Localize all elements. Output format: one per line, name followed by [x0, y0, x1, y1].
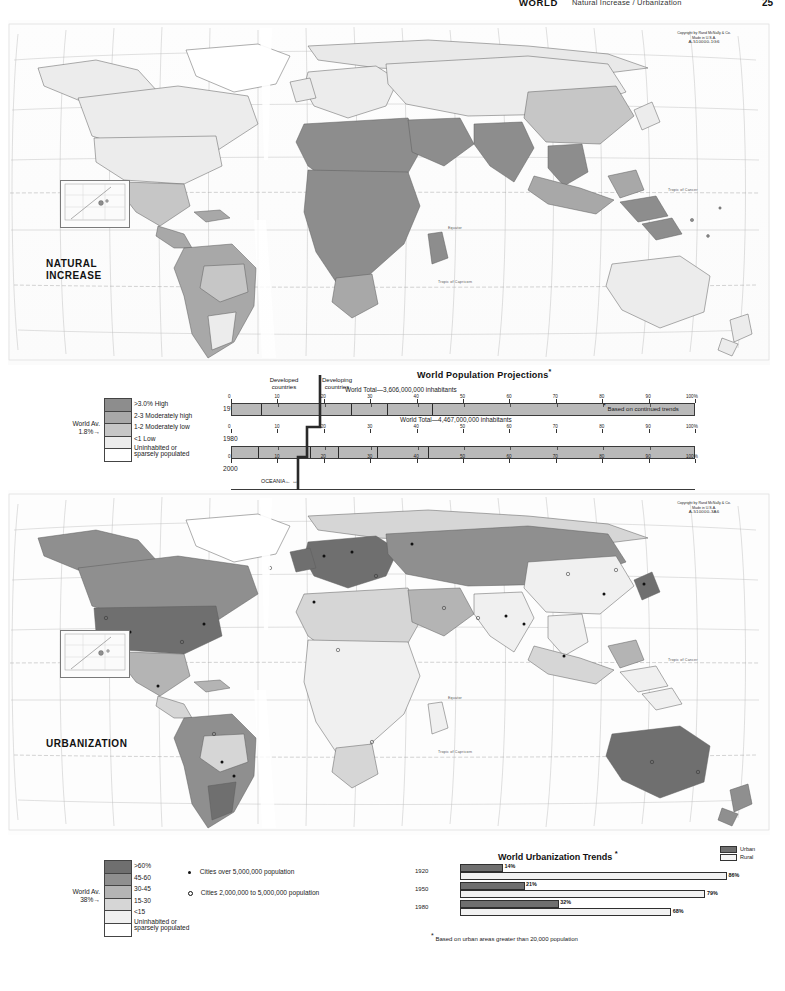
urb-swatch-3[interactable]	[105, 899, 131, 912]
axis-tick-label: 50	[460, 394, 465, 399]
projections-segment-1970-latinam[interactable]	[351, 404, 387, 415]
urb-label-3: 15-30	[134, 895, 189, 907]
axis-tick-label: 90	[646, 454, 651, 459]
axis-tick	[695, 459, 696, 463]
urbanization-year-label: 1950	[415, 886, 428, 892]
map1-inset-graphic	[61, 181, 129, 227]
urbanization-chart-legend: Urban Rural	[720, 846, 755, 861]
page-header: WORLD Natural Increase / Urbanization 25	[0, 0, 785, 9]
projections-footnote-marker: *	[603, 402, 606, 409]
axis-tick	[556, 459, 557, 463]
projections-chart-title: World Population Projections*	[417, 368, 551, 380]
urb-swatch-0[interactable]	[105, 861, 131, 874]
map2-inset-box[interactable]	[60, 630, 130, 678]
axis-tick	[649, 429, 650, 433]
urb-world-av-label: World Av.	[48, 888, 100, 896]
natural-increase-map[interactable]: Tropic of Cancer Equator Tropic of Capri…	[8, 20, 770, 365]
city-key-medium-label: Cities 2,000,000 to 5,000,000 population	[201, 889, 319, 896]
world-urbanization-trends-chart: World Urbanization Trends * Urban Rural …	[415, 840, 785, 950]
city-key-medium: Cities 2,000,000 to 5,000,000 population	[188, 889, 319, 896]
urbanization-chart-title: World Urbanization Trends *	[498, 849, 618, 862]
map1-inset-box[interactable]	[60, 180, 130, 228]
axis-tick-label: 10	[274, 424, 279, 429]
urb-swatch-1[interactable]	[105, 874, 131, 887]
urbanization-year-label: 1980	[415, 904, 428, 910]
projections-oceania-note: OCEANIA← ↔	[261, 478, 298, 484]
ni-swatch-1[interactable]	[105, 412, 131, 425]
axis-tick	[417, 459, 418, 463]
urb-legend-row-urban: Urban	[720, 846, 755, 853]
urb-swatch-column[interactable]	[104, 860, 132, 937]
axis-tick	[509, 429, 510, 433]
urb-label-4: <15	[134, 906, 189, 918]
axis-tick	[695, 399, 696, 403]
urbanization-rural-bar[interactable]	[460, 890, 705, 898]
city-dot-open-icon	[188, 891, 193, 896]
urbanization-footnote-text: Based on urban areas greater than 20,000…	[435, 936, 577, 942]
urbanization-urban-bar[interactable]	[460, 864, 503, 872]
urbanization-bars-area[interactable]: 192014%86%195021%79%198032%68%	[415, 864, 785, 920]
bar-minor-tick	[418, 447, 419, 450]
urbanization-year-label: 1920	[415, 868, 428, 874]
ni-swatch-2[interactable]	[105, 424, 131, 437]
axis-tick-label: 100%	[686, 394, 698, 399]
projections-world-total-1980: World Total—4,467,000,000 inhabitants	[400, 416, 512, 423]
axis-tick-label: 50	[460, 454, 465, 459]
ni-swatch-3[interactable]	[105, 437, 131, 450]
urb-swatch-2[interactable]	[105, 886, 131, 899]
axis-tick-label: 40	[414, 454, 419, 459]
axis-tick	[277, 429, 278, 433]
header-title: WORLD	[519, 0, 558, 8]
urb-label-0: >60%	[134, 860, 189, 872]
urbanization-urban-bar[interactable]	[460, 900, 559, 908]
axis-tick-label: 0	[228, 454, 231, 459]
urbanization-legend: World Av. 38%→ >60%45-6030-4515-30<15Uni…	[48, 860, 388, 950]
urbanization-map[interactable]: Tropic of Cancer Equator Tropic of Capri…	[8, 490, 770, 835]
axis-tick-label: 10	[274, 394, 279, 399]
ni-label-4: Uninhabited orsparsely populated	[134, 444, 192, 457]
urbanization-rural-bar[interactable]	[460, 872, 727, 880]
ni-swatch-0[interactable]	[105, 399, 131, 412]
urbanization-rural-bar[interactable]	[460, 908, 671, 916]
bar-minor-tick	[510, 447, 511, 450]
urb-arrow-icon: →	[93, 896, 100, 903]
urbanization-urban-bar[interactable]	[460, 882, 525, 890]
bar-minor-tick	[557, 404, 558, 407]
axis-tick-label: 80	[599, 424, 604, 429]
map1-label-tropic-capricorn: Tropic of Capricorn	[438, 280, 472, 284]
rural-swatch	[720, 854, 737, 861]
map2-inset-graphic	[61, 631, 129, 677]
map1-label-equator: Equator	[448, 226, 462, 230]
urb-label-2: 30-45	[134, 883, 189, 895]
map2-copyright: Copyright by Rand McNally & Co. Made in …	[644, 501, 764, 515]
projections-segment-1970-africa[interactable]	[387, 404, 432, 415]
bar-minor-tick	[371, 404, 372, 407]
axis-tick-label: 30	[367, 454, 372, 459]
axis-tick	[231, 429, 232, 433]
urbanization-title-footnote-marker: *	[615, 849, 618, 858]
axis-tick	[277, 459, 278, 463]
map1-title-line2: INCREASE	[46, 270, 102, 282]
urb-swatch-5[interactable]	[105, 924, 131, 936]
axis-tick-label: 50	[460, 424, 465, 429]
ni-label-0: >3.0% High	[134, 398, 192, 410]
bar-minor-tick	[510, 404, 511, 407]
map1-label-tropic-cancer: Tropic of Cancer	[668, 188, 698, 192]
ni-swatch-4[interactable]	[105, 449, 131, 461]
map2-title-line1: URBANIZATION	[46, 738, 127, 750]
urb-swatch-4[interactable]	[105, 911, 131, 924]
bar-minor-tick	[603, 447, 604, 450]
axis-tick	[463, 459, 464, 463]
bar-minor-tick	[650, 447, 651, 450]
oceania-text: OCEANIA	[261, 478, 285, 484]
axis-tick-label: 10	[274, 454, 279, 459]
city-key-large: Cities over 5,000,000 population	[188, 868, 294, 875]
axis-tick-label: 70	[553, 454, 558, 459]
projections-segment-1970-nam[interactable]	[232, 404, 261, 415]
urbanization-chart-title-text: World Urbanization Trends	[498, 852, 612, 862]
ni-swatch-column[interactable]	[104, 398, 132, 462]
ni-world-av-value: 1.8%	[78, 428, 93, 435]
rural-legend-label: Rural	[740, 854, 753, 860]
axis-tick	[509, 459, 510, 463]
ni-label-column: >3.0% High2-3 Moderately high1-2 Moderat…	[134, 398, 192, 457]
